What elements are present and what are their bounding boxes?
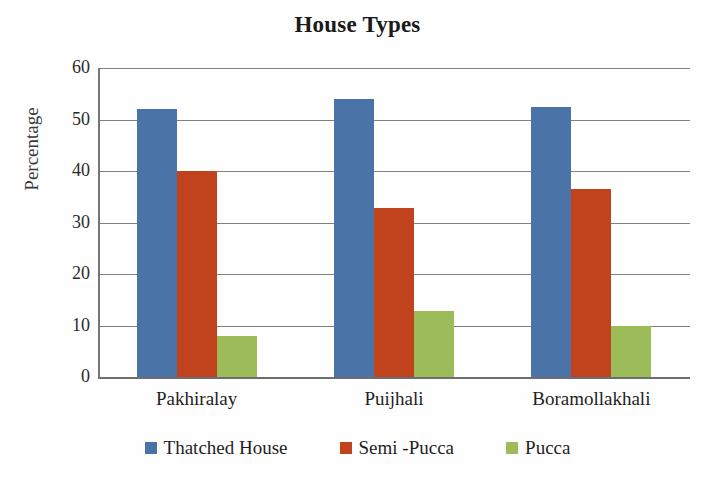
chart-title: House Types xyxy=(0,12,715,38)
y-tick-label-50: 50 xyxy=(44,109,90,130)
legend-swatch-pucca xyxy=(506,442,518,454)
legend-swatch-thatched-house xyxy=(145,442,157,454)
legend-item-pucca[interactable]: Pucca xyxy=(506,437,570,459)
y-tick-label-10: 10 xyxy=(44,315,90,336)
y-tick-label-30: 30 xyxy=(44,212,90,233)
bars-layer xyxy=(98,68,690,377)
gridline-0 xyxy=(98,377,690,379)
bar-semi-pucca-pakhiralay[interactable] xyxy=(177,171,217,377)
y-tick-label-20: 20 xyxy=(44,263,90,284)
x-axis-category-labels: PakhiralayPuijhaliBoramollakhali xyxy=(98,388,690,418)
bar-pucca-boramollakhali[interactable] xyxy=(611,326,651,378)
bar-semi-pucca-boramollakhali[interactable] xyxy=(571,189,611,377)
category-label-pakhiralay: Pakhiralay xyxy=(98,388,295,410)
bar-semi-pucca-puijhali[interactable] xyxy=(374,208,414,377)
legend-item-thatched-house[interactable]: Thatched House xyxy=(145,437,288,459)
y-tick-label-60: 60 xyxy=(44,57,90,78)
chart-container: House Types Percentage 0102030405060 Pak… xyxy=(0,0,715,490)
bar-thatched-house-boramollakhali[interactable] xyxy=(531,107,571,377)
y-tick-label-40: 40 xyxy=(44,160,90,181)
bar-thatched-house-pakhiralay[interactable] xyxy=(137,109,177,377)
y-tick-label-0: 0 xyxy=(44,366,90,387)
category-label-puijhali: Puijhali xyxy=(295,388,492,410)
y-axis-tick-labels: 0102030405060 xyxy=(38,68,90,377)
bar-pucca-puijhali[interactable] xyxy=(414,311,454,377)
legend-label-thatched-house: Thatched House xyxy=(164,437,288,459)
bar-pucca-pakhiralay[interactable] xyxy=(217,336,257,377)
category-label-boramollakhali: Boramollakhali xyxy=(493,388,690,410)
legend-item-semi-pucca[interactable]: Semi -Pucca xyxy=(340,437,455,459)
chart-legend: Thatched HouseSemi -PuccaPucca xyxy=(0,437,715,459)
legend-swatch-semi-pucca xyxy=(340,442,352,454)
legend-label-semi-pucca: Semi -Pucca xyxy=(359,437,455,459)
legend-label-pucca: Pucca xyxy=(525,437,570,459)
bar-thatched-house-puijhali[interactable] xyxy=(334,99,374,377)
